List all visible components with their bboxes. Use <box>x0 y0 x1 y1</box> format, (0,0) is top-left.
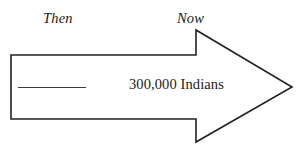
arrow-body-text: 300,000 Indians <box>129 77 224 92</box>
arrow-diagram-screenshot: Then Now 300,000 Indians <box>0 0 300 144</box>
label-now: Now <box>177 11 204 26</box>
label-then: Then <box>43 11 73 26</box>
blank-fill-in-line <box>18 87 86 88</box>
